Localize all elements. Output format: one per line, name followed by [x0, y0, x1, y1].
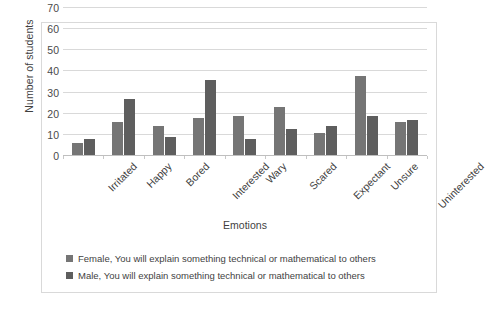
bar-group	[63, 8, 103, 156]
x-axis-category-label-text: Interested	[230, 160, 272, 202]
x-axis-category-label: Uninterested	[436, 160, 486, 211]
x-axis-title: Emotions	[63, 219, 427, 231]
legend-item-female: Female, You will explain something techn…	[50, 250, 430, 267]
bar-group	[346, 8, 386, 156]
bar	[84, 139, 95, 156]
bar	[355, 76, 366, 156]
bar	[124, 99, 135, 156]
bar	[153, 126, 164, 156]
chart-legend: Female, You will explain something techn…	[50, 250, 430, 284]
y-axis-tick-label: 60	[47, 23, 59, 35]
bar-group	[103, 8, 143, 156]
bar	[314, 133, 325, 156]
bar	[367, 116, 378, 156]
y-axis-tick-label: 10	[47, 129, 59, 141]
x-axis-category-label: Unsure	[388, 160, 420, 192]
bar-group	[184, 8, 224, 156]
bar-group	[306, 8, 346, 156]
x-axis-category-label-text: Unsure	[388, 160, 420, 192]
bar	[112, 122, 123, 156]
bar-group	[387, 8, 427, 156]
legend-label-male: Male, You will explain something technic…	[78, 270, 365, 281]
bar	[274, 107, 285, 156]
x-axis-tick	[265, 156, 266, 159]
y-axis-tick-label: 0	[53, 150, 59, 162]
x-axis-category-label-text: Irritated	[105, 160, 139, 194]
y-axis-tick-label: 70	[47, 2, 59, 14]
x-axis-tick	[184, 156, 185, 159]
bar	[407, 120, 418, 156]
square-marker-icon	[66, 255, 73, 262]
y-axis-title: Number of students	[23, 6, 35, 126]
x-axis-category-label: Happy	[144, 160, 174, 190]
x-axis-tick	[144, 156, 145, 159]
bar-group	[265, 8, 305, 156]
bar	[193, 118, 204, 156]
x-axis-tick-labels: IrritatedHappyBoredInterestedWaryScaredE…	[63, 160, 427, 218]
y-axis-tick-label: 30	[47, 87, 59, 99]
bar	[233, 116, 244, 156]
x-axis-tick	[346, 156, 347, 159]
legend-item-male: Male, You will explain something technic…	[50, 267, 430, 284]
y-axis-tick-label: 40	[47, 65, 59, 77]
plot-inner: 706050403020100	[63, 8, 427, 156]
x-axis-tick	[225, 156, 226, 159]
x-axis-tick	[306, 156, 307, 159]
x-axis-category-label: Scared	[307, 160, 339, 192]
x-axis-category-label-text: Happy	[144, 160, 174, 190]
x-axis-line	[63, 155, 427, 156]
x-axis-category-label: Expectant	[351, 160, 393, 202]
bar	[395, 122, 406, 156]
bar-group	[144, 8, 184, 156]
x-axis-tick	[427, 156, 428, 159]
bar	[165, 137, 176, 156]
y-axis-tick-label: 20	[47, 108, 59, 120]
x-axis-category-label-text: Expectant	[351, 160, 393, 202]
x-axis-tick	[387, 156, 388, 159]
y-axis-tick-label: 50	[47, 44, 59, 56]
x-axis-tick	[103, 156, 104, 159]
plot-area: 706050403020100	[63, 8, 427, 156]
square-marker-icon	[66, 272, 73, 279]
x-axis-category-label: Interested	[230, 160, 272, 202]
legend-label-female: Female, You will explain something techn…	[78, 253, 376, 264]
bar	[205, 80, 216, 156]
x-axis-category-label: Irritated	[105, 160, 139, 194]
bar-group	[225, 8, 265, 156]
bar	[326, 126, 337, 156]
x-axis-category-label-text: Scared	[307, 160, 339, 192]
x-axis-category-label-text: Bored	[184, 160, 212, 188]
x-axis-category-label: Bored	[184, 160, 212, 188]
bar	[286, 129, 297, 156]
x-axis-tick	[63, 156, 64, 159]
bar	[245, 139, 256, 156]
x-axis-category-label-text: Uninterested	[436, 160, 486, 211]
